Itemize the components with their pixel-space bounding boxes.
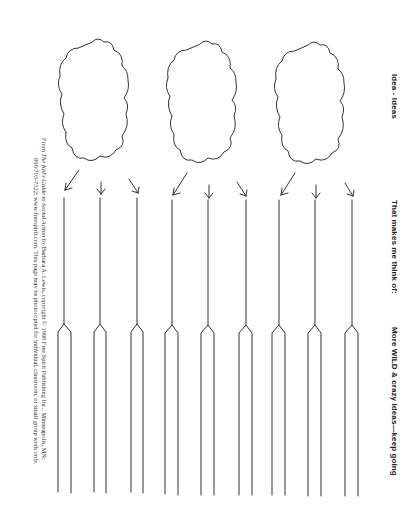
header-wild-ideas: More WILD & crazy ideas—keep going	[390, 327, 399, 476]
credit-line-2: 866/703-7322; www.freespirit.com. This p…	[32, 138, 40, 464]
arrows-cloud-1	[65, 170, 139, 194]
arrows-cloud-2	[173, 173, 247, 198]
credit-line-1: From The Kid's Guide to Social Action by…	[40, 138, 48, 464]
header-idea: Idea - Ideas	[390, 74, 399, 119]
copyright-credit: From The Kid's Guide to Social Action by…	[32, 138, 48, 464]
arrows-cloud-3	[281, 173, 354, 198]
worksheet-drawing	[0, 0, 414, 524]
header-makes-me-think: That makes me think of:	[390, 200, 399, 294]
worksheet-page: Idea - Ideas That makes me think of: Mor…	[0, 0, 414, 524]
idea-cloud-1	[58, 39, 128, 161]
branch-lines	[58, 198, 358, 496]
idea-cloud-2	[166, 41, 236, 163]
idea-cloud-3	[274, 42, 344, 164]
book-title: The Kid's Guide to Social Action	[41, 153, 48, 237]
